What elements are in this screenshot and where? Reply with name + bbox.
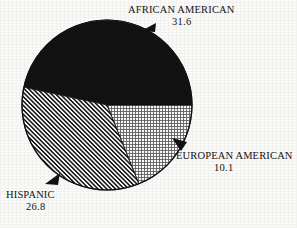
slice-label-hispanic-name: HISPANIC (6, 189, 116, 200)
slice-label-european-american-name: EUROPEAN AMERICAN (176, 150, 297, 161)
figure-canvas: AFRICAN AMERICAN 31.6 EUROPEAN AMERICAN … (0, 0, 297, 228)
slice-label-african-american-name: AFRICAN AMERICAN (128, 4, 268, 15)
slice-label-hispanic: HISPANIC 26.8 (6, 189, 116, 213)
slice-label-european-american: EUROPEAN AMERICAN 10.1 (176, 150, 297, 174)
pointer-arrow-hispanic-icon (45, 173, 60, 185)
slice-label-african-american: AFRICAN AMERICAN 31.6 (128, 4, 268, 28)
slice-label-european-american-value: 10.1 (214, 162, 297, 173)
slice-label-african-american-value: 31.6 (172, 16, 268, 27)
slice-label-hispanic-value: 26.8 (26, 201, 116, 212)
